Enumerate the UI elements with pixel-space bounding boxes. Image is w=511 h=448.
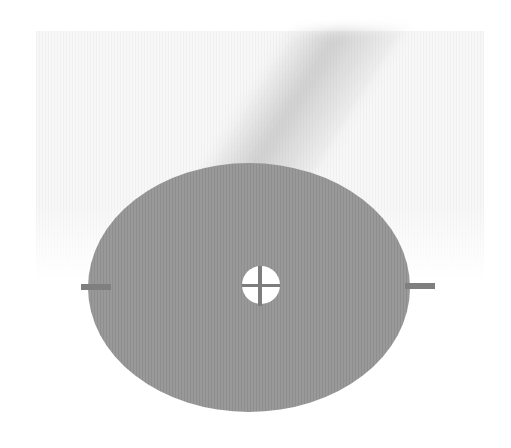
right-tab	[405, 283, 435, 289]
left-tab	[81, 284, 111, 290]
photo-scene	[0, 0, 511, 448]
cross-horizontal-bar	[242, 284, 280, 287]
